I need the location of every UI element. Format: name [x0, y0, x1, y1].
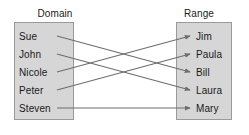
domain-member-nicole: Nicole	[19, 67, 73, 78]
domain-member-steven: Steven	[19, 103, 73, 114]
range-member-jim: Jim	[196, 31, 246, 42]
domain-member-john: John	[19, 49, 73, 60]
range-member-laura: Laura	[196, 85, 246, 96]
domain-title: Domain	[18, 8, 92, 19]
mapping-arrow	[57, 54, 190, 90]
domain-member-sue: Sue	[19, 31, 73, 42]
mapping-arrow	[57, 36, 190, 72]
domain-member-peter: Peter	[19, 85, 73, 96]
mapping-arrow	[57, 36, 190, 72]
mapping-arrow	[57, 54, 190, 90]
range-member-bill: Bill	[196, 67, 246, 78]
range-member-paula: Paula	[196, 49, 246, 60]
range-title: Range	[166, 8, 232, 19]
mapping-diagram: Domain Range Sue John Nicole Peter Steve…	[0, 0, 249, 135]
range-member-mary: Mary	[196, 103, 246, 114]
